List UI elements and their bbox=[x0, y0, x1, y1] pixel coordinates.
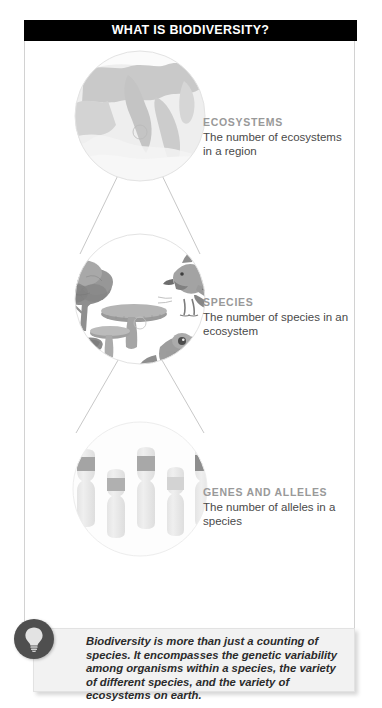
level-species-kicker: SPECIES bbox=[203, 296, 353, 309]
genes-illustration bbox=[73, 422, 213, 556]
level-ecosystems: ECOSYSTEMS The number of ecosystems in a… bbox=[203, 116, 353, 158]
lightbulb-icon bbox=[14, 619, 54, 659]
level-genes-and-alleles: GENES AND ALLELES The number of alleles … bbox=[203, 486, 353, 528]
page-title: WHAT IS BIODIVERSITY? bbox=[112, 24, 269, 37]
level-genes-kicker: GENES AND ALLELES bbox=[203, 486, 353, 499]
caption-text: Biodiversity is more than just a countin… bbox=[86, 635, 344, 703]
chromosome bbox=[167, 467, 184, 536]
chromosome bbox=[107, 469, 125, 538]
level-genes-description: The number of alleles in a species bbox=[203, 500, 353, 528]
infographic-page: WHAT IS BIODIVERSITY? bbox=[0, 0, 382, 708]
caption-callout: Biodiversity is more than just a countin… bbox=[33, 628, 355, 692]
level-ecosystems-description: The number of ecosystems in a region bbox=[203, 130, 353, 158]
level-ecosystems-kicker: ECOSYSTEMS bbox=[203, 116, 353, 129]
chromosome bbox=[137, 447, 155, 529]
ecosystems-illustration bbox=[72, 51, 205, 181]
level-species: SPECIES The number of species in an ecos… bbox=[203, 296, 353, 338]
level-species-description: The number of species in an ecosystem bbox=[203, 310, 353, 338]
page-title-banner: WHAT IS BIODIVERSITY? bbox=[24, 20, 357, 41]
